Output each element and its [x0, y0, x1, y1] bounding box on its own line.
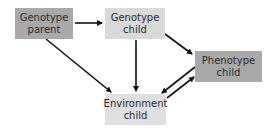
edge-genotype-parent-to-environment-child — [46, 39, 111, 92]
node-phenotype-child: Phenotype child — [195, 51, 262, 82]
node-genotype-child: Genotype child — [105, 8, 165, 39]
node-genotype-parent: Genotype parent — [15, 8, 73, 39]
edge-genotype-child-to-phenotype-child — [165, 34, 192, 54]
edge-environment-child-to-phenotype-child — [167, 77, 194, 98]
node-label: Environment child — [104, 98, 168, 122]
node-environment-child: Environment child — [105, 94, 166, 125]
node-label: Genotype parent — [20, 12, 69, 36]
node-label: Genotype child — [111, 12, 160, 36]
node-label: Phenotype child — [202, 55, 255, 79]
